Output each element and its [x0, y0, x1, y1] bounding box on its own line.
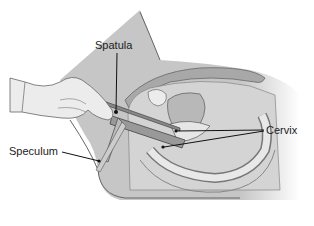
label-spatula: Spatula: [95, 40, 132, 51]
label-speculum: Speculum: [9, 146, 58, 157]
diagram-canvas: Spatula Speculum Cervix: [0, 0, 314, 226]
label-cervix: Cervix: [266, 125, 297, 136]
